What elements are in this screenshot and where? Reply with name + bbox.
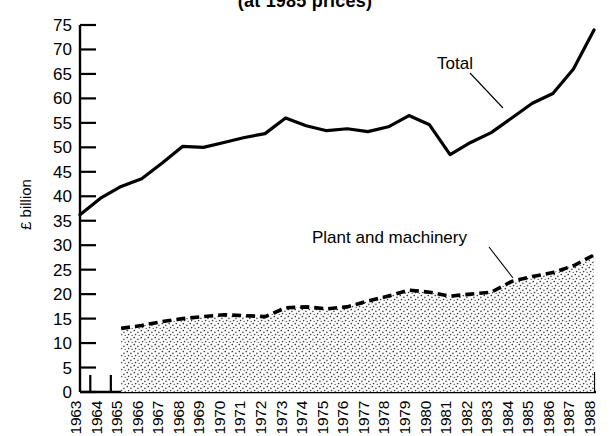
chart-canvas: (at 1985 prices) £ billion 0510152025303…: [0, 0, 610, 436]
plant-leader-line: [489, 247, 513, 278]
plot-area: [0, 0, 610, 436]
plant-and-machinery-area: [121, 255, 594, 392]
total-series-label: Total: [437, 54, 473, 74]
plant-and-machinery-series-label: Plant and machinery: [312, 228, 467, 248]
total-line: [80, 30, 594, 215]
total-leader-line: [470, 73, 503, 108]
